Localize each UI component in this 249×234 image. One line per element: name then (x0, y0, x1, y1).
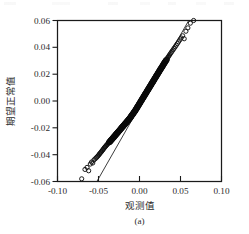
data-point (80, 177, 84, 181)
x-tick-label: 0.05 (172, 186, 188, 196)
data-point (186, 26, 190, 30)
qq-plot-svg: 0.06 0.04 0.02 0.00 -0.02 -0.04 -0.06 -0… (0, 0, 249, 234)
scatter-markers (80, 18, 196, 181)
figure-caption: (a) (134, 216, 144, 226)
y-tick-label: 0.04 (34, 42, 50, 52)
y-tick-label: -0.02 (31, 123, 51, 133)
y-tick-label: 0.00 (34, 96, 50, 106)
y-axis-ticks (53, 21, 58, 182)
x-tick-label: -0.05 (89, 186, 109, 196)
figure-panel: 0.06 0.04 0.02 0.00 -0.02 -0.04 -0.06 -0… (0, 0, 249, 234)
y-tick-label: -0.04 (31, 150, 51, 160)
x-tick-labels: -0.10 -0.05 0.00 0.05 0.10 (48, 186, 230, 196)
y-tick-labels: 0.06 0.04 0.02 0.00 -0.02 -0.04 -0.06 (31, 16, 51, 187)
x-axis-title: 观测值 (125, 200, 155, 211)
y-axis-title: 期望正常值 (5, 76, 16, 126)
x-tick-label: -0.10 (48, 186, 68, 196)
y-tick-label: 0.06 (34, 16, 50, 26)
x-tick-label: 0.10 (213, 186, 229, 196)
y-tick-label: 0.02 (34, 69, 50, 79)
x-tick-label: 0.00 (131, 186, 147, 196)
